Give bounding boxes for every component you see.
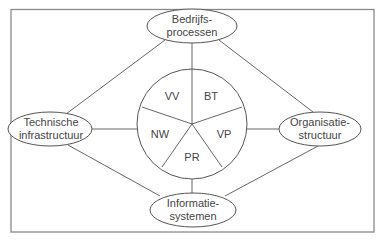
segment-vp: VP <box>217 128 232 140</box>
node-bedrijfsprocessen: Bedrijfs- processen <box>147 9 237 43</box>
node-top-line2: processen <box>167 26 218 38</box>
node-bottom-line2: systemen <box>169 210 216 222</box>
segment-pr: PR <box>184 151 199 163</box>
node-right-line2: structuur <box>299 129 342 141</box>
node-bottom-line1: Informatie- <box>167 197 220 209</box>
node-left-line1: Technische <box>23 116 78 128</box>
node-technische-infrastructuur: Technische infrastructuur <box>8 112 92 146</box>
node-top-line1: Bedrijfs- <box>172 13 213 25</box>
node-organisatiestructuur: Organisatie- structuur <box>279 112 361 146</box>
diagram-canvas: VV BT VP PR NW Bedrijfs- processen Techn… <box>0 0 384 248</box>
segment-bt: BT <box>204 90 218 102</box>
node-right-line1: Organisatie- <box>290 116 350 128</box>
segment-nw: NW <box>151 128 170 140</box>
node-left-line2: infrastructuur <box>19 129 84 141</box>
center-pie: VV BT VP PR NW <box>137 69 247 179</box>
node-informatiesystemen: Informatie- systemen <box>150 193 236 227</box>
segment-vv: VV <box>165 90 180 102</box>
